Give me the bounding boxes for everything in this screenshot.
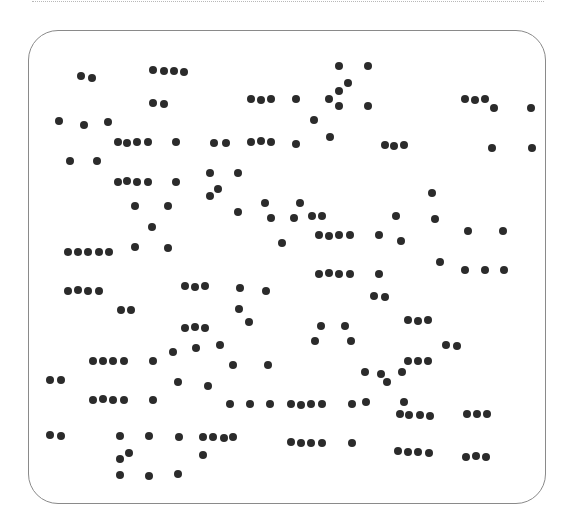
dot bbox=[278, 239, 286, 247]
dot bbox=[104, 118, 112, 126]
dot bbox=[174, 470, 182, 478]
dot bbox=[325, 95, 333, 103]
dot bbox=[201, 324, 209, 332]
dot bbox=[64, 287, 72, 295]
dot bbox=[234, 208, 242, 216]
dot bbox=[246, 400, 254, 408]
dot bbox=[123, 177, 131, 185]
dot bbox=[431, 215, 439, 223]
dot bbox=[236, 284, 244, 292]
dot bbox=[229, 361, 237, 369]
dot bbox=[257, 137, 265, 145]
dot bbox=[315, 270, 323, 278]
dot bbox=[245, 318, 253, 326]
dot bbox=[114, 178, 122, 186]
dot bbox=[528, 144, 536, 152]
dot bbox=[307, 439, 315, 447]
dot bbox=[397, 237, 405, 245]
dot bbox=[381, 293, 389, 301]
dot bbox=[120, 396, 128, 404]
dot bbox=[287, 400, 295, 408]
dot bbox=[206, 192, 214, 200]
dot bbox=[381, 141, 389, 149]
dot bbox=[311, 337, 319, 345]
dot bbox=[482, 453, 490, 461]
dot bbox=[226, 400, 234, 408]
dot bbox=[392, 212, 400, 220]
dot bbox=[348, 439, 356, 447]
dot bbox=[396, 410, 404, 418]
dot bbox=[335, 231, 343, 239]
dot-field bbox=[0, 0, 575, 532]
dot bbox=[527, 104, 535, 112]
dot bbox=[318, 212, 326, 220]
dot bbox=[472, 452, 480, 460]
dot bbox=[181, 282, 189, 290]
dot bbox=[84, 287, 92, 295]
dot bbox=[234, 169, 242, 177]
dot bbox=[109, 357, 117, 365]
dot bbox=[462, 453, 470, 461]
dot bbox=[481, 266, 489, 274]
dot bbox=[206, 169, 214, 177]
dot bbox=[325, 232, 333, 240]
dot bbox=[318, 439, 326, 447]
dot bbox=[404, 448, 412, 456]
dot bbox=[400, 398, 408, 406]
dot bbox=[191, 283, 199, 291]
dot bbox=[424, 357, 432, 365]
dot bbox=[247, 95, 255, 103]
dot bbox=[84, 248, 92, 256]
dot bbox=[453, 342, 461, 350]
dot bbox=[145, 472, 153, 480]
dot bbox=[120, 357, 128, 365]
dot bbox=[424, 316, 432, 324]
dot bbox=[164, 202, 172, 210]
dot bbox=[264, 361, 272, 369]
dot bbox=[488, 144, 496, 152]
dot bbox=[414, 357, 422, 365]
dot bbox=[404, 316, 412, 324]
dot bbox=[383, 378, 391, 386]
dot bbox=[127, 306, 135, 314]
dot bbox=[267, 214, 275, 222]
dot bbox=[308, 212, 316, 220]
dot bbox=[209, 433, 217, 441]
dot bbox=[290, 214, 298, 222]
dot bbox=[116, 455, 124, 463]
dot bbox=[204, 382, 212, 390]
dot bbox=[425, 449, 433, 457]
dot bbox=[361, 368, 369, 376]
dot bbox=[109, 396, 117, 404]
dot bbox=[428, 189, 436, 197]
dot bbox=[80, 121, 88, 129]
dot bbox=[116, 471, 124, 479]
dot bbox=[180, 68, 188, 76]
dot bbox=[95, 287, 103, 295]
dot bbox=[335, 87, 343, 95]
dot bbox=[99, 357, 107, 365]
dot bbox=[483, 410, 491, 418]
dot bbox=[307, 400, 315, 408]
dot bbox=[499, 227, 507, 235]
dot bbox=[426, 412, 434, 420]
dot bbox=[172, 178, 180, 186]
dot bbox=[292, 140, 300, 148]
dot bbox=[257, 96, 265, 104]
dot bbox=[93, 157, 101, 165]
dot bbox=[296, 199, 304, 207]
dot bbox=[375, 231, 383, 239]
dot bbox=[164, 244, 172, 252]
dot bbox=[133, 178, 141, 186]
dot bbox=[169, 348, 177, 356]
dot bbox=[347, 337, 355, 345]
dot bbox=[210, 139, 218, 147]
dot bbox=[229, 433, 237, 441]
dot bbox=[416, 411, 424, 419]
dot bbox=[335, 270, 343, 278]
dot bbox=[170, 67, 178, 75]
dot bbox=[262, 287, 270, 295]
dot bbox=[77, 72, 85, 80]
dot bbox=[201, 282, 209, 290]
dot bbox=[145, 432, 153, 440]
